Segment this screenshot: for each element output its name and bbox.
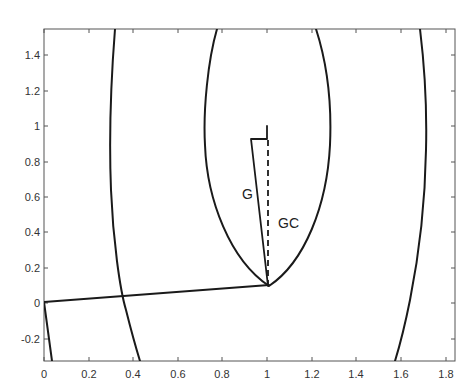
x-tick-label: 0.2	[81, 368, 96, 380]
y-tick-label: 1.4	[25, 49, 40, 61]
x-tick-label: 1.2	[304, 368, 319, 380]
path-from-origin	[44, 285, 269, 302]
y-tick-label: 0.2	[25, 262, 40, 274]
path-down	[44, 302, 52, 361]
contour-plot: 0 0.2 0.4 0.6 0.8 1 1.2 1.4 1.6 1.8 -0.2…	[0, 0, 474, 392]
x-tick-label: 1	[264, 368, 270, 380]
contour-inner-ellipse	[205, 29, 331, 286]
label-gc: GC	[278, 215, 299, 231]
y-tick-label: 0.8	[25, 156, 40, 168]
x-tick-labels: 0 0.2 0.4 0.6 0.8 1 1.2 1.4 1.6 1.8	[41, 368, 454, 380]
x-tick-label: 0.4	[125, 368, 140, 380]
y-tick-label: 1.2	[25, 85, 40, 97]
y-tick-label: -0.2	[21, 333, 40, 345]
y-tick-label: 0	[34, 297, 40, 309]
x-tick-label: 1.6	[393, 368, 408, 380]
y-tick-labels: -0.2 0 0.2 0.4 0.6 0.8 1 1.2 1.4	[21, 49, 40, 345]
path-g	[251, 126, 268, 286]
x-tick-label: 0.6	[170, 368, 185, 380]
y-tick-label: 1	[34, 120, 40, 132]
y-tick-label: 0.4	[25, 226, 40, 238]
x-tick-label: 1.8	[438, 368, 453, 380]
contour-left-outer	[110, 29, 140, 361]
y-tick-label: 0.6	[25, 191, 40, 203]
contour-right-outer	[395, 29, 426, 361]
x-tick-label: 0	[41, 368, 47, 380]
x-tick-label: 0.8	[214, 368, 229, 380]
x-tick-label: 1.4	[348, 368, 363, 380]
label-g: G	[242, 186, 253, 202]
